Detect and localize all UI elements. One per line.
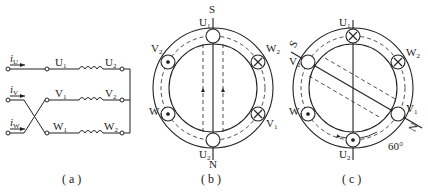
svg-text:U1: U1 — [339, 16, 351, 30]
svg-text:iW: iW — [10, 116, 20, 130]
svg-text:U1: U1 — [199, 16, 211, 30]
svg-text:iV: iV — [10, 83, 18, 97]
svg-text:S: S — [286, 38, 299, 49]
svg-text:60°: 60° — [388, 140, 403, 152]
caption-a: ( a ) — [62, 172, 81, 186]
coil-u — [79, 67, 103, 70]
svg-text:W2: W2 — [406, 46, 420, 60]
svg-text:V1: V1 — [266, 117, 278, 131]
svg-text:S: S — [209, 3, 215, 15]
svg-text:W2: W2 — [266, 42, 280, 56]
svg-text:W1: W1 — [289, 105, 303, 119]
figure-a-labels: iU iV iW U1 V1 W1 U2 V2 W2 ( a ) — [10, 52, 118, 186]
three-phase-winding-diagram: iU iV iW U1 V1 W1 U2 V2 W2 ( a ) S U1 U2… — [0, 0, 428, 193]
svg-text:U1: U1 — [55, 56, 67, 70]
figure-c-stator — [291, 20, 422, 160]
svg-text:V2: V2 — [105, 87, 117, 101]
svg-text:U2: U2 — [339, 148, 351, 162]
svg-text:U2: U2 — [105, 56, 117, 70]
svg-text:iU: iU — [10, 52, 18, 66]
svg-text:N: N — [406, 121, 420, 134]
svg-text:V2: V2 — [151, 42, 163, 56]
svg-text:V1: V1 — [55, 87, 67, 101]
svg-text:V1: V1 — [406, 102, 418, 116]
svg-text:W1: W1 — [149, 105, 163, 119]
svg-text:W2: W2 — [104, 120, 118, 134]
coil-v — [79, 98, 103, 101]
figure-b-stator — [153, 18, 273, 160]
svg-text:N: N — [209, 158, 217, 170]
caption-c: ( c ) — [342, 172, 361, 186]
coil-w — [79, 131, 103, 134]
svg-text:W1: W1 — [53, 120, 67, 134]
caption-b: ( b ) — [201, 172, 221, 186]
